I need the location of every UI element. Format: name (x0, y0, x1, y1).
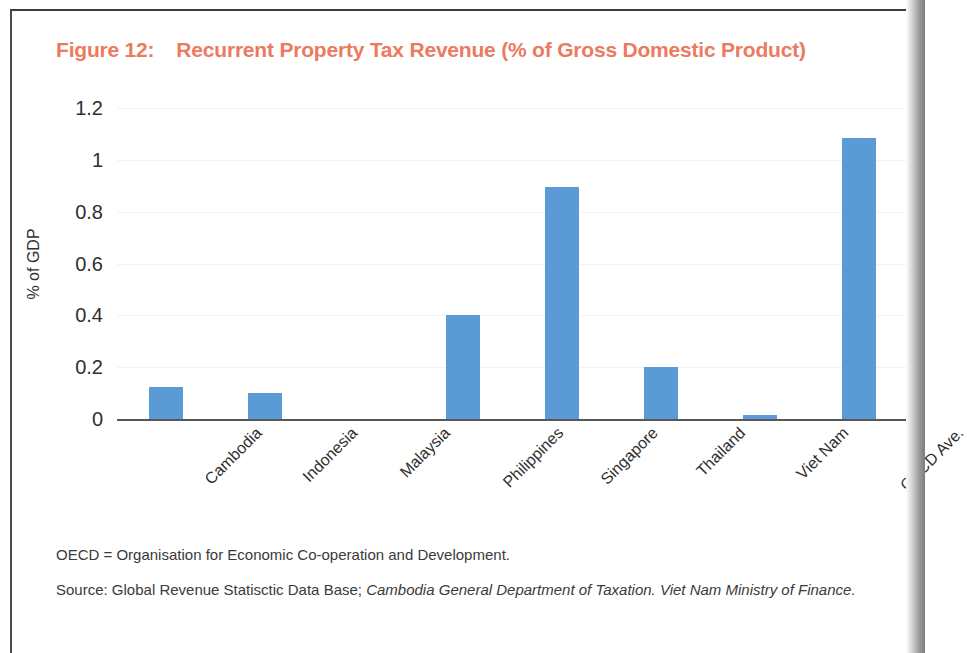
source-prefix: Source: Global Revenue Statisctic Data B… (56, 581, 366, 598)
figure-title: Figure 12:Recurrent Property Tax Revenue… (56, 38, 906, 62)
bar-cambodia (149, 387, 183, 419)
bar-philippines (446, 315, 480, 419)
y-tick-0.4: 0.4 (75, 304, 103, 327)
x-tick-philippines: Philippines (500, 424, 567, 491)
y-tick-0.8: 0.8 (75, 200, 103, 223)
figure-chart: Figure 12:Recurrent Property Tax Revenue… (0, 0, 925, 540)
x-tick-indonesia: Indonesia (300, 424, 362, 486)
y-tick-0.2: 0.2 (75, 356, 103, 379)
source-italic: Cambodia General Department of Taxation.… (366, 581, 855, 598)
bar-indonesia (248, 393, 282, 419)
bar-viet-nam (743, 415, 777, 419)
page-edge-shadow (906, 0, 925, 653)
bar-series (117, 108, 908, 419)
x-tick-singapore: Singapore (597, 424, 661, 488)
bar-oecd-ave (842, 138, 876, 419)
abbreviation-note: OECD = Organisation for Economic Co-oper… (56, 546, 901, 563)
x-tick-viet-nam: Viet Nam (793, 424, 852, 483)
bar-thailand (644, 367, 678, 419)
x-axis-line (117, 419, 908, 421)
y-tick-0: 0 (92, 408, 103, 431)
y-tick-1.2: 1.2 (75, 97, 103, 120)
y-tick-1: 1 (92, 148, 103, 171)
x-tick-malaysia: Malaysia (397, 424, 454, 481)
y-axis-tick-labels: 00.20.40.60.811.2 (0, 0, 117, 540)
figure-title-text: Recurrent Property Tax Revenue (% of Gro… (176, 38, 805, 61)
y-axis-title: % of GDP (25, 228, 43, 299)
source-note: Source: Global Revenue Statisctic Data B… (56, 579, 901, 601)
bar-singapore (545, 187, 579, 419)
x-tick-cambodia: Cambodia (202, 424, 266, 488)
x-tick-thailand: Thailand (693, 424, 749, 480)
figure-notes: OECD = Organisation for Economic Co-oper… (56, 546, 901, 601)
y-tick-0.6: 0.6 (75, 252, 103, 275)
